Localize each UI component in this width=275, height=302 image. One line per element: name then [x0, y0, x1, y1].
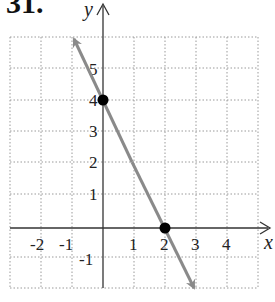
- svg-text:3: 3: [191, 235, 200, 254]
- axes: [10, 4, 270, 288]
- graph: x y -2 -1 1 2 3 4 -1 1 2 3 4 5: [0, 0, 275, 302]
- y-tick-labels: -1 1 2 3 4 5: [79, 60, 98, 269]
- svg-text:-1: -1: [79, 250, 93, 269]
- svg-text:4: 4: [222, 235, 231, 254]
- svg-text:-1: -1: [59, 235, 73, 254]
- svg-text:1: 1: [129, 235, 138, 254]
- svg-text:2: 2: [160, 235, 169, 254]
- svg-text:2: 2: [89, 153, 98, 172]
- y-axis-label: y: [82, 0, 93, 21]
- x-axis-label: x: [263, 231, 273, 253]
- point-x-intercept: [160, 223, 171, 234]
- svg-text:1: 1: [89, 185, 98, 204]
- svg-text:3: 3: [89, 122, 98, 141]
- x-tick-labels: -2 -1 1 2 3 4: [30, 235, 231, 254]
- point-y-intercept: [98, 95, 109, 106]
- svg-text:4: 4: [89, 91, 98, 110]
- svg-text:-2: -2: [30, 235, 44, 254]
